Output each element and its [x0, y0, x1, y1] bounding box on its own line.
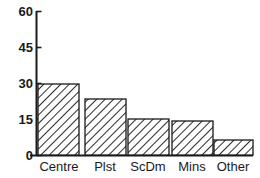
- y-tick-label-60: 60: [8, 5, 33, 18]
- x-tick-label-other: Other: [204, 160, 260, 173]
- y-tick-label-45: 45: [8, 41, 33, 54]
- y-tick-label-30: 30: [8, 77, 33, 90]
- bar-other: [214, 140, 253, 155]
- bar-series: [38, 84, 253, 155]
- bar-chart: 60 45 30 15 0 Centre Plst ScDm Mins Othe…: [0, 0, 260, 178]
- chart-canvas: [0, 0, 260, 178]
- bar-plst: [85, 99, 126, 155]
- bar-centre: [38, 84, 79, 155]
- bar-mins: [172, 121, 213, 155]
- y-tick-label-15: 15: [8, 113, 33, 126]
- bar-scdm: [128, 119, 169, 155]
